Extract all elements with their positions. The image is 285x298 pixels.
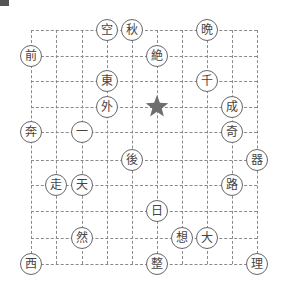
grid-row-line (31, 56, 257, 57)
kanji-tile[interactable]: 絶 (146, 45, 168, 67)
kanji-tile[interactable]: 秋 (121, 19, 143, 41)
grid-row-line (31, 211, 257, 212)
kanji-tile[interactable]: 大 (196, 227, 218, 249)
kanji-tile[interactable]: 西 (20, 253, 42, 275)
kanji-tile[interactable]: 想 (171, 227, 193, 249)
grid-col-line (132, 30, 133, 264)
grid-col-line (56, 30, 57, 264)
kanji-tile[interactable]: 器 (246, 149, 268, 171)
kanji-tile[interactable]: 晩 (196, 19, 218, 41)
kanji-tile[interactable]: 天 (71, 174, 93, 196)
grid-row-line (31, 160, 257, 161)
kanji-tile[interactable]: 千 (196, 70, 218, 92)
grid-row-line (31, 30, 257, 31)
kanji-tile[interactable]: 路 (221, 174, 243, 196)
kanji-tile[interactable]: 後 (121, 149, 143, 171)
kanji-tile[interactable]: 東 (96, 70, 118, 92)
grid-row-line (31, 81, 257, 82)
grid-row-line (31, 264, 257, 265)
grid-col-line (232, 30, 233, 264)
grid-col-line (257, 30, 258, 264)
grid-row-line (31, 238, 257, 239)
kanji-tile[interactable]: 整 (146, 253, 168, 275)
kanji-tile[interactable]: 空 (96, 19, 118, 41)
puzzle-board: 空秋晩前絶東千外成奔一奇後器走天路日然想大西整理 (0, 0, 285, 298)
kanji-tile[interactable]: 奔 (20, 121, 42, 143)
kanji-tile[interactable]: 然 (71, 227, 93, 249)
kanji-tile[interactable]: 理 (246, 253, 268, 275)
kanji-tile[interactable]: 外 (96, 96, 118, 118)
star-icon (145, 94, 169, 118)
kanji-tile[interactable]: 前 (20, 45, 42, 67)
kanji-tile[interactable]: 一 (71, 121, 93, 143)
kanji-tile[interactable]: 奇 (221, 121, 243, 143)
kanji-tile[interactable]: 日 (146, 200, 168, 222)
grid-col-line (107, 30, 108, 264)
kanji-tile[interactable]: 成 (221, 96, 243, 118)
corner-mark (0, 0, 9, 6)
kanji-tile[interactable]: 走 (45, 174, 67, 196)
